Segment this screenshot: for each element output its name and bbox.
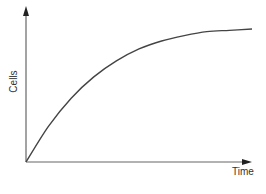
x-axis-label: Time (232, 166, 254, 177)
y-axis-arrow-icon (23, 6, 29, 16)
growth-curve (26, 29, 252, 162)
x-axis-arrow-icon (242, 159, 252, 165)
chart-canvas (0, 0, 266, 194)
y-axis-label: Cells (8, 67, 19, 97)
